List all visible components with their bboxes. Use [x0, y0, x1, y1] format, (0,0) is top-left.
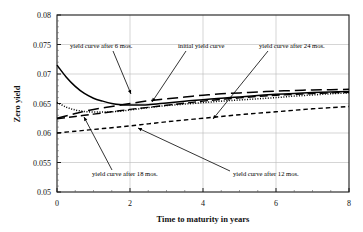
x-tick-label: 2	[128, 199, 132, 208]
y-tick-label: 0.075	[33, 41, 51, 50]
chart-figure: 024680.050.0550.060.0650.070.0750.08 yie…	[0, 0, 363, 232]
y-tick-label: 0.06	[37, 129, 51, 138]
annotation-label: yield curve after 6 mos.	[70, 42, 133, 49]
annotation-arrowhead	[152, 98, 156, 102]
annotation-labels: yield curve after 6 mos.initial yield cu…	[70, 42, 325, 177]
annotation-leader-lines	[84, 51, 268, 171]
x-axis-title: Time to maturity in years	[157, 214, 251, 224]
annotation-label: yield curve after 24 mos.	[259, 42, 325, 49]
annotation-leader	[113, 51, 131, 94]
y-tick-label: 0.055	[33, 159, 51, 168]
tick-labels: 024680.050.0550.060.0650.070.0750.08	[33, 11, 351, 208]
y-tick-label: 0.07	[37, 70, 51, 79]
y-tick-label: 0.08	[37, 11, 51, 20]
x-tick-label: 4	[201, 199, 205, 208]
annotation-leader	[84, 117, 112, 170]
yield-curve-chart: 024680.050.0550.060.0650.070.0750.08 yie…	[0, 0, 363, 232]
y-tick-label: 0.05	[37, 188, 51, 197]
x-tick-label: 8	[347, 199, 351, 208]
y-axis-title: Zero yield	[12, 85, 22, 122]
annotation-leader	[152, 51, 186, 102]
annotation-label: yield curve after 12 mos.	[233, 170, 299, 177]
annotation-leader	[138, 128, 230, 171]
x-tick-label: 0	[55, 199, 59, 208]
x-tick-label: 6	[274, 199, 278, 208]
annotation-label: yield curve after 18 mos.	[92, 170, 158, 177]
y-tick-label: 0.065	[33, 100, 51, 109]
annotation-label: initial yield curve	[178, 42, 225, 49]
annotation-leader	[213, 51, 268, 119]
